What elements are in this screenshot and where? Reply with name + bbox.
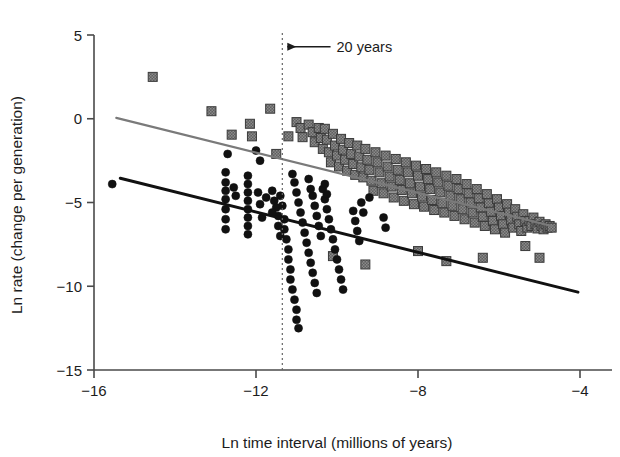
x-axis-label: Ln time interval (millions of years) <box>222 434 453 451</box>
data-point-circle <box>284 255 292 263</box>
data-point-circle <box>286 266 294 274</box>
data-point-circle <box>244 230 252 238</box>
data-point-circle <box>293 306 301 314</box>
data-point-square <box>361 144 370 153</box>
data-point-circle <box>276 232 284 240</box>
data-point-circle <box>359 209 367 217</box>
series-squares <box>148 72 556 269</box>
y-tick-label-2: −5 <box>65 194 82 211</box>
data-point-square <box>245 119 254 128</box>
data-point-circle <box>244 172 252 180</box>
data-point-circle <box>365 193 373 201</box>
data-point-circle <box>382 224 390 232</box>
data-point-square <box>472 185 481 194</box>
data-point-circle <box>297 209 305 217</box>
scatter-plot: 50−5−10−15−16−12−8−4 Ln time interval (m… <box>0 0 620 457</box>
x-tick-label-2: −8 <box>409 382 426 399</box>
data-point-circle <box>108 180 116 188</box>
data-point-square <box>535 253 544 262</box>
twenty-years-label: 20 years <box>337 39 393 55</box>
data-point-circle <box>357 199 365 207</box>
data-point-circle <box>329 235 337 243</box>
data-point-circle <box>295 324 303 332</box>
data-point-circle <box>339 286 347 294</box>
data-point-circle <box>230 183 238 191</box>
y-tick-label-4: −15 <box>57 362 82 379</box>
data-point-square <box>207 107 216 116</box>
data-point-circle <box>307 185 315 193</box>
data-point-circle <box>313 212 321 220</box>
x-tick-label-3: −4 <box>571 382 588 399</box>
data-point-circle <box>224 150 232 158</box>
x-tick-label-1: −12 <box>243 382 268 399</box>
data-point-circle <box>254 188 262 196</box>
data-point-circle <box>293 188 301 196</box>
data-point-circle <box>286 276 294 284</box>
data-point-square <box>478 253 487 262</box>
data-point-circle <box>222 168 230 176</box>
data-point-circle <box>290 178 298 186</box>
data-point-circle <box>288 170 296 178</box>
x-tick-label-0: −16 <box>81 382 106 399</box>
data-point-circle <box>284 245 292 253</box>
data-point-circle <box>333 255 341 263</box>
data-point-circle <box>222 225 230 233</box>
data-point-square <box>361 260 370 269</box>
data-point-circle <box>288 286 296 294</box>
data-point-circle <box>311 202 319 210</box>
data-point-circle <box>353 227 361 235</box>
data-point-circle <box>301 229 309 237</box>
data-point-square <box>247 132 256 141</box>
data-point-square <box>442 171 451 180</box>
data-point-square <box>492 195 501 204</box>
data-point-circle <box>303 239 311 247</box>
data-point-square <box>482 190 491 199</box>
data-point-circle <box>323 205 331 213</box>
figure-container: 50−5−10−15−16−12−8−4 Ln time interval (m… <box>0 0 620 457</box>
data-point-square <box>381 151 390 160</box>
data-point-circle <box>290 296 298 304</box>
data-point-square <box>148 72 157 81</box>
y-axis-label: Ln rate (change per generation) <box>8 96 25 314</box>
data-point-square <box>401 158 410 167</box>
data-point-circle <box>311 279 319 287</box>
data-point-circle <box>325 215 333 223</box>
data-point-circle <box>349 207 357 215</box>
data-point-circle <box>222 215 230 223</box>
data-point-circle <box>293 316 301 324</box>
data-point-square <box>462 180 471 189</box>
data-point-circle <box>276 192 284 200</box>
data-point-square <box>371 148 380 157</box>
data-point-circle <box>222 195 230 203</box>
data-point-circle <box>380 214 388 222</box>
data-point-circle <box>309 269 317 277</box>
data-point-circle <box>307 259 315 267</box>
data-point-circle <box>351 217 359 225</box>
data-point-circle <box>244 188 252 196</box>
data-point-circle <box>331 245 339 253</box>
data-point-square <box>411 161 420 170</box>
data-point-circle <box>262 193 270 201</box>
data-point-circle <box>321 180 329 188</box>
y-tick-label-1: 0 <box>74 110 82 127</box>
data-point-circle <box>222 187 230 195</box>
data-point-circle <box>244 214 252 222</box>
data-point-square <box>521 242 530 251</box>
data-point-circle <box>323 190 331 198</box>
data-point-circle <box>335 266 343 274</box>
data-point-circle <box>313 289 321 297</box>
data-point-circle <box>244 197 252 205</box>
data-point-circle <box>295 199 303 207</box>
data-point-circle <box>232 192 240 200</box>
data-point-square <box>422 165 431 174</box>
data-point-circle <box>305 175 313 183</box>
data-point-square <box>227 130 236 139</box>
data-point-square <box>432 168 441 177</box>
data-point-circle <box>256 200 264 208</box>
y-tick-label-3: −10 <box>57 278 82 295</box>
data-point-square <box>391 154 400 163</box>
y-tick-label-0: 5 <box>74 27 82 44</box>
data-point-circle <box>256 157 264 165</box>
data-point-circle <box>317 232 325 240</box>
data-point-square <box>284 132 293 141</box>
